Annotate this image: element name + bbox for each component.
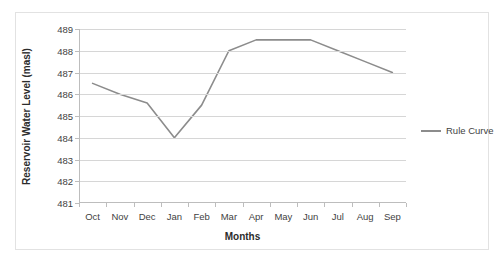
series-line xyxy=(93,40,393,138)
x-axis-tick-mark xyxy=(406,203,407,207)
gridline xyxy=(79,94,406,95)
y-axis-tick-label: 484 xyxy=(57,132,73,143)
y-axis-tick-label: 489 xyxy=(57,24,73,35)
y-axis-tick-label: 481 xyxy=(57,198,73,209)
x-axis-tick-label: Aug xyxy=(357,211,374,222)
gridline xyxy=(79,181,406,182)
y-axis-title: Reservoir Water Level (masl) xyxy=(19,29,33,203)
plot-area: 481482483484485486487488489 OctNovDecJan… xyxy=(79,29,406,203)
x-axis-tick-label: Sep xyxy=(384,211,401,222)
y-axis-tick-label: 483 xyxy=(57,154,73,165)
x-axis-line xyxy=(79,202,406,203)
y-axis-tick-label: 487 xyxy=(57,67,73,78)
x-axis-title-label: Months xyxy=(225,231,261,242)
x-axis-tick-label: Mar xyxy=(221,211,237,222)
gridline xyxy=(79,73,406,74)
x-axis-tick-label: Feb xyxy=(193,211,209,222)
y-axis-title-label: Reservoir Water Level (masl) xyxy=(21,48,32,185)
legend-item-label: Rule Curve xyxy=(446,125,494,136)
y-axis-tick-label: 488 xyxy=(57,45,73,56)
y-axis-tick-label: 482 xyxy=(57,176,73,187)
x-axis-tick-mark xyxy=(324,203,325,207)
chart-frame: Reservoir Water Level (masl) 48148248348… xyxy=(15,12,489,250)
gridline xyxy=(79,51,406,52)
plot-wrapper: Reservoir Water Level (masl) 48148248348… xyxy=(16,13,490,251)
x-axis-tick-label: Apr xyxy=(249,211,264,222)
x-axis-tick-mark xyxy=(134,203,135,207)
gridline xyxy=(79,138,406,139)
x-axis-tick-mark xyxy=(215,203,216,207)
x-axis-tick-label: May xyxy=(274,211,292,222)
legend-line-swatch xyxy=(421,130,441,132)
x-axis-tick-label: Oct xyxy=(85,211,100,222)
x-axis-tick-mark xyxy=(297,203,298,207)
x-axis-tick-label: Nov xyxy=(111,211,128,222)
gridline xyxy=(79,160,406,161)
gridline xyxy=(79,29,406,30)
chart-legend: Rule Curve xyxy=(421,125,494,136)
x-axis-tick-mark xyxy=(79,203,80,207)
x-axis-tick-mark xyxy=(188,203,189,207)
x-axis-tick-label: Jul xyxy=(332,211,344,222)
x-axis-tick-mark xyxy=(352,203,353,207)
x-axis-tick-label: Jun xyxy=(303,211,318,222)
gridline xyxy=(79,116,406,117)
x-axis-tick-mark xyxy=(379,203,380,207)
x-axis-tick-mark xyxy=(270,203,271,207)
x-axis-tick-mark xyxy=(161,203,162,207)
x-axis-tick-label: Dec xyxy=(139,211,156,222)
x-axis-tick-mark xyxy=(243,203,244,207)
x-axis-tick-label: Jan xyxy=(167,211,182,222)
y-axis-tick-label: 486 xyxy=(57,89,73,100)
x-axis-tick-mark xyxy=(106,203,107,207)
x-axis-title: Months xyxy=(79,231,406,242)
y-axis-line xyxy=(79,29,80,203)
y-axis-tick-label: 485 xyxy=(57,111,73,122)
